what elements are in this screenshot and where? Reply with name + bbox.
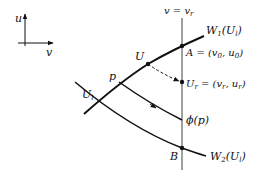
point-ur-label: Ur = (vr, ur): [186, 78, 246, 91]
point-ul-label: Ul: [82, 88, 94, 102]
point-ur: [180, 80, 184, 84]
u-axis-label: u: [15, 12, 22, 25]
point-a: [180, 44, 184, 48]
vertical-line-label: v = vr: [164, 5, 194, 18]
w2-label: W2(Ul): [210, 150, 246, 164]
point-b: [180, 146, 184, 150]
axes-icon: u v: [15, 12, 53, 59]
point-u-label: U: [135, 50, 145, 63]
point-b-label: B: [169, 150, 178, 163]
phi-label: ϕ(p): [186, 114, 209, 127]
point-u: [146, 62, 150, 66]
phi-curve: [119, 82, 182, 120]
point-a-label: A = (v0, u0): [185, 47, 243, 60]
dashed-arrow-u-to-ur: [148, 64, 179, 81]
v-axis-label: v: [46, 46, 53, 59]
riemann-wave-diagram: u v v = vr W1(Ul) W2(Ul) ϕ(p) U A = (v0,…: [0, 0, 260, 180]
w1-label: W1(Ul): [206, 24, 242, 38]
point-p-label: p: [109, 70, 116, 83]
